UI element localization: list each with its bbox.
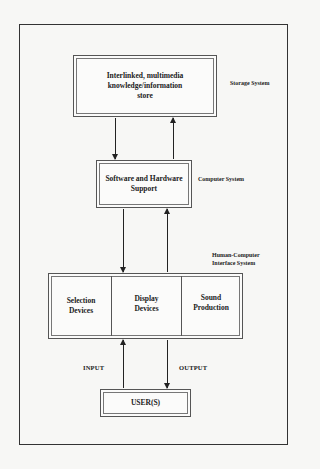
selection-devices-line-1: Selection: [67, 296, 96, 306]
display-devices-line-1: Display: [134, 294, 158, 304]
user-node: USER(S): [100, 389, 191, 417]
arrow-software-to-hci: [123, 209, 124, 272]
arrow-software-to-storage: [173, 118, 174, 159]
arrow-hci-to-software: [167, 209, 168, 272]
selection-devices-line-2: Devices: [67, 306, 96, 316]
computer-system-label: Computer System: [198, 175, 244, 183]
storage-label-line-1: Interlinked, multimedia: [107, 71, 184, 81]
output-label: OUTPUT: [179, 364, 207, 371]
storage-node: Interlinked, multimedia knowledge/inform…: [73, 55, 217, 117]
storage-label-line-2: knowledge/information: [107, 81, 184, 91]
hci-node: Selection Devices Display Devices Sound …: [48, 273, 243, 339]
hci-cell-sound-production: Sound Production: [181, 276, 240, 336]
hci-system-label-line-2: Interface System: [212, 259, 260, 267]
arrow-hci-to-user-output: [167, 340, 168, 388]
display-devices-line-2: Devices: [134, 304, 158, 314]
arrow-storage-to-software: [115, 118, 116, 159]
hci-cell-selection-devices: Selection Devices: [51, 276, 111, 336]
hci-system-label-line-1: Human-Computer: [212, 251, 260, 259]
user-label: USER(S): [131, 398, 160, 408]
software-label-line-2: Support: [105, 184, 182, 194]
sound-production-line-2: Production: [193, 303, 229, 313]
sound-production-line-1: Sound: [193, 293, 229, 303]
storage-system-label: Storage System: [230, 79, 270, 87]
hci-cell-display-devices: Display Devices: [111, 276, 181, 336]
software-label-line-1: Software and Hardware: [105, 174, 182, 184]
hci-system-label: Human-Computer Interface System: [212, 251, 260, 267]
storage-label-line-3: store: [107, 91, 184, 101]
input-label: INPUT: [83, 364, 104, 371]
software-hardware-node: Software and Hardware Support: [96, 160, 192, 208]
arrow-user-to-hci-input: [123, 340, 124, 388]
